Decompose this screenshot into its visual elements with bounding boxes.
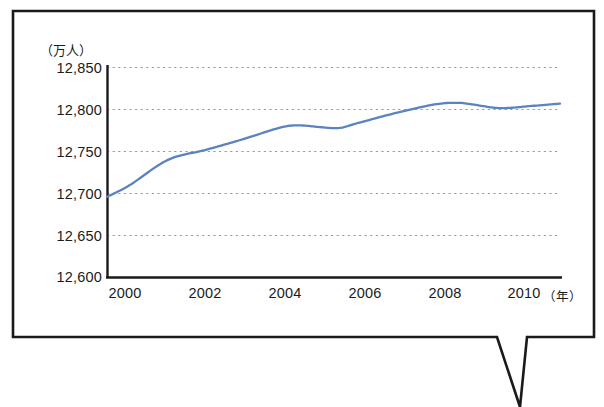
x-axis-unit-label: （年） bbox=[543, 286, 582, 305]
plot-area bbox=[0, 0, 604, 407]
x-tick-2000: 2000 bbox=[108, 285, 141, 301]
x-tick-2008: 2008 bbox=[428, 285, 461, 301]
gridlines bbox=[107, 68, 560, 236]
line-chart: （万人） 12,850 12,800 12,750 12,700 12,650 … bbox=[0, 0, 604, 407]
x-tick-2010: 2010 bbox=[507, 285, 540, 301]
x-tick-2002: 2002 bbox=[188, 285, 221, 301]
axes bbox=[106, 65, 562, 278]
x-tick-2006: 2006 bbox=[348, 285, 381, 301]
chart-screenshot: （万人） 12,850 12,800 12,750 12,700 12,650 … bbox=[0, 0, 604, 407]
data-series-line bbox=[107, 103, 560, 197]
x-tick-2004: 2004 bbox=[268, 285, 301, 301]
